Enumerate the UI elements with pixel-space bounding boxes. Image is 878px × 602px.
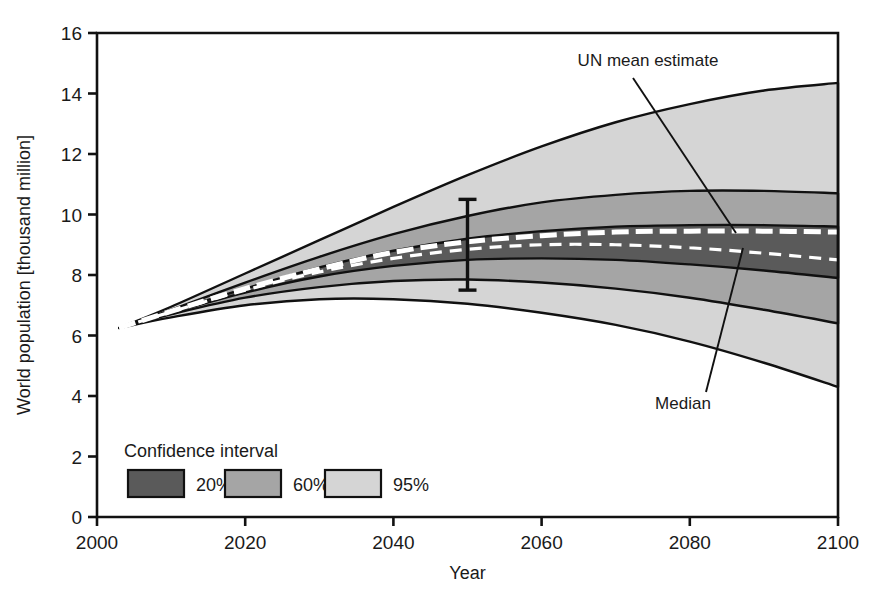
- y-axis-title: World population [thousand million]: [14, 135, 34, 415]
- y-tick-label: 8: [71, 265, 82, 286]
- legend-item[interactable]: 20%: [128, 470, 232, 497]
- x-tick-label: 2000: [76, 532, 118, 553]
- legend-label: 95%: [393, 475, 429, 495]
- y-tick-label: 16: [61, 23, 82, 44]
- legend-item[interactable]: 95%: [325, 470, 429, 497]
- legend: Confidence interval20%60%95%: [124, 441, 429, 497]
- y-tick-label: 0: [71, 507, 82, 528]
- legend-swatch: [225, 470, 281, 497]
- legend-swatch: [128, 470, 184, 497]
- y-tick-label: 14: [61, 84, 83, 105]
- y-tick-label: 12: [61, 144, 82, 165]
- confidence-bands: [119, 83, 838, 387]
- y-tick-label: 2: [71, 447, 82, 468]
- legend-title: Confidence interval: [124, 441, 278, 461]
- legend-label: 60%: [293, 475, 329, 495]
- x-tick-label: 2040: [372, 532, 414, 553]
- x-tick-label: 2020: [224, 532, 266, 553]
- legend-item[interactable]: 60%: [225, 470, 329, 497]
- y-tick-label: 6: [71, 326, 82, 347]
- x-axis-title: Year: [449, 563, 485, 583]
- y-tick-label: 10: [61, 205, 82, 226]
- x-tick-label: 2080: [669, 532, 711, 553]
- population-projection-chart: 0246810121416200020202040206020802100Yea…: [0, 0, 878, 602]
- y-tick-label: 4: [71, 386, 82, 407]
- annotation-median: Median: [655, 394, 711, 413]
- annotation-un-mean-estimate: UN mean estimate: [578, 51, 719, 70]
- x-tick-label: 2100: [817, 532, 859, 553]
- legend-swatch: [325, 470, 381, 497]
- chart-canvas: 0246810121416200020202040206020802100Yea…: [0, 0, 878, 602]
- x-tick-label: 2060: [520, 532, 562, 553]
